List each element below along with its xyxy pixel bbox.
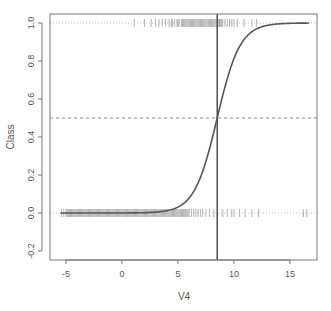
reference-lines <box>50 14 317 260</box>
chart-canvas: -0.20.00.20.40.60.81.0 -5051015 V4 Class <box>0 0 331 311</box>
plot-frame <box>50 14 317 260</box>
x-tick-label: 0 <box>119 269 124 279</box>
y-tick-label: 0.2 <box>26 169 36 182</box>
y-tick-label: 0.8 <box>26 55 36 68</box>
x-tick-label: 10 <box>229 269 239 279</box>
x-tick-label: 5 <box>175 269 180 279</box>
logistic-regression-chart: -0.20.00.20.40.60.81.0 -5051015 V4 Class <box>0 0 331 311</box>
y-tick-label: -0.2 <box>26 243 36 259</box>
x-tick-label: 15 <box>285 269 295 279</box>
x-axis-label: V4 <box>178 291 191 302</box>
y-tick-label: 0.0 <box>26 207 36 220</box>
y-axis: -0.20.00.20.40.60.81.0 <box>26 17 42 259</box>
x-axis: -5051015 <box>62 260 295 279</box>
y-axis-label: Class <box>5 124 16 149</box>
y-tick-label: 1.0 <box>26 17 36 30</box>
y-tick-label: 0.4 <box>26 131 36 144</box>
x-tick-label: -5 <box>62 269 70 279</box>
y-tick-label: 0.6 <box>26 93 36 106</box>
